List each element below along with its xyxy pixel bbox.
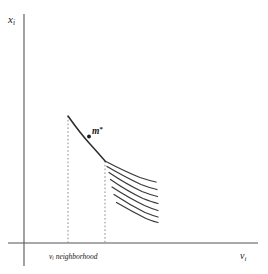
x-axis-label: vi — [240, 251, 246, 263]
curve-label-superscript: * — [99, 125, 102, 132]
curve-point-marker — [87, 135, 91, 139]
main-curve-m-star — [68, 116, 106, 162]
axes-group — [8, 14, 258, 266]
y-axis-label: xi — [8, 14, 15, 27]
y-axis-label-subscript: i — [13, 18, 15, 27]
main-curve-group — [68, 116, 106, 162]
neighborhood-label: vi neighborhood — [49, 253, 98, 262]
figure-container: xi vi vi neighborhood m* — [0, 0, 268, 274]
curve-label-m-star: m* — [92, 126, 103, 136]
branch-curves-group — [106, 162, 158, 223]
figure-canvas — [0, 0, 268, 274]
neighborhood-label-subscript: i — [52, 255, 53, 261]
x-axis-label-subscript: i — [244, 255, 246, 262]
neighborhood-label-text: neighborhood — [56, 252, 98, 261]
branch-curve-7 — [117, 203, 159, 223]
